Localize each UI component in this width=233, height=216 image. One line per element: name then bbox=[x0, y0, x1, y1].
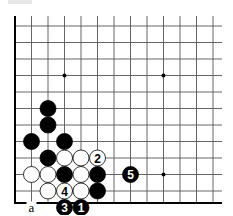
move-number-label: 2 bbox=[94, 152, 101, 166]
star-point-dot bbox=[63, 74, 67, 78]
black-stone bbox=[24, 134, 40, 150]
white-stone: 2 bbox=[90, 150, 106, 166]
white-stone bbox=[73, 150, 89, 166]
white-stone bbox=[73, 183, 89, 199]
black-stone: 5 bbox=[123, 167, 139, 183]
white-stone bbox=[73, 167, 89, 183]
black-stone bbox=[40, 101, 56, 117]
move-number-label: 5 bbox=[127, 168, 134, 182]
white-stone bbox=[24, 167, 40, 183]
point-marker-label: a bbox=[29, 200, 35, 215]
black-stone bbox=[40, 117, 56, 133]
move-number-label: 3 bbox=[61, 201, 68, 215]
move-number-label: 1 bbox=[78, 201, 85, 215]
white-stone bbox=[40, 183, 56, 199]
star-point-dot bbox=[162, 74, 166, 78]
white-stone bbox=[57, 150, 73, 166]
black-stone: 3 bbox=[57, 200, 73, 216]
black-stone bbox=[90, 183, 106, 199]
black-stone bbox=[57, 167, 73, 183]
move-number-label: 4 bbox=[61, 185, 68, 199]
point-markers: a bbox=[27, 200, 37, 215]
black-stone bbox=[90, 167, 106, 183]
star-point-dot bbox=[162, 173, 166, 177]
black-stone: 1 bbox=[73, 200, 89, 216]
white-stone: 4 bbox=[57, 183, 73, 199]
white-stone bbox=[40, 167, 56, 183]
black-stone bbox=[57, 134, 73, 150]
black-stone bbox=[40, 150, 56, 166]
go-board: a 25431 bbox=[0, 0, 233, 215]
